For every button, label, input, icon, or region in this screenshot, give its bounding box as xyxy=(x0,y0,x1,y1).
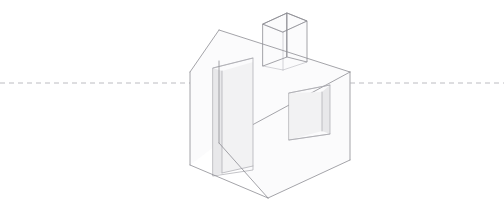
perspective-house-drawing xyxy=(0,0,504,212)
drawing-canvas xyxy=(0,0,504,212)
door-inner-panel-fill xyxy=(222,62,253,173)
door-left-reveal-fill xyxy=(213,68,222,176)
window-right-reveal-fill xyxy=(322,85,330,134)
